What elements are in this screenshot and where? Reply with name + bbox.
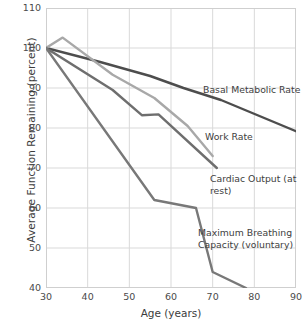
y-tick-label: 90 (1, 83, 41, 93)
y-tick-label: 60 (1, 203, 41, 213)
x-tick-label: 70 (198, 291, 228, 302)
y-tick-label: 80 (1, 123, 41, 133)
x-tick-label: 40 (73, 291, 103, 302)
y-axis-ticks: 405060708090100110 (0, 0, 46, 327)
series-line-2 (46, 48, 217, 168)
chart-container: Average Function Remaining (percent) 405… (0, 0, 308, 327)
series-annotation-0: Basal Metabolic Rate (203, 84, 300, 96)
y-tick-label: 50 (1, 243, 41, 253)
x-tick-label: 90 (281, 291, 308, 302)
y-tick-label: 40 (1, 283, 41, 293)
x-axis-title: Age (years) (46, 307, 296, 319)
x-tick-label: 80 (239, 291, 269, 302)
y-tick-label: 100 (1, 43, 41, 53)
y-tick-label: 110 (1, 3, 41, 13)
x-tick-label: 60 (156, 291, 186, 302)
series-annotation-1: Work Rate (205, 131, 253, 143)
x-tick-label: 50 (114, 291, 144, 302)
y-tick-label: 70 (1, 163, 41, 173)
series-annotation-2: Cardiac Output (at rest) (210, 173, 308, 196)
series-annotation-3: Maximum Breathing Capacity (voluntary) (198, 227, 293, 250)
